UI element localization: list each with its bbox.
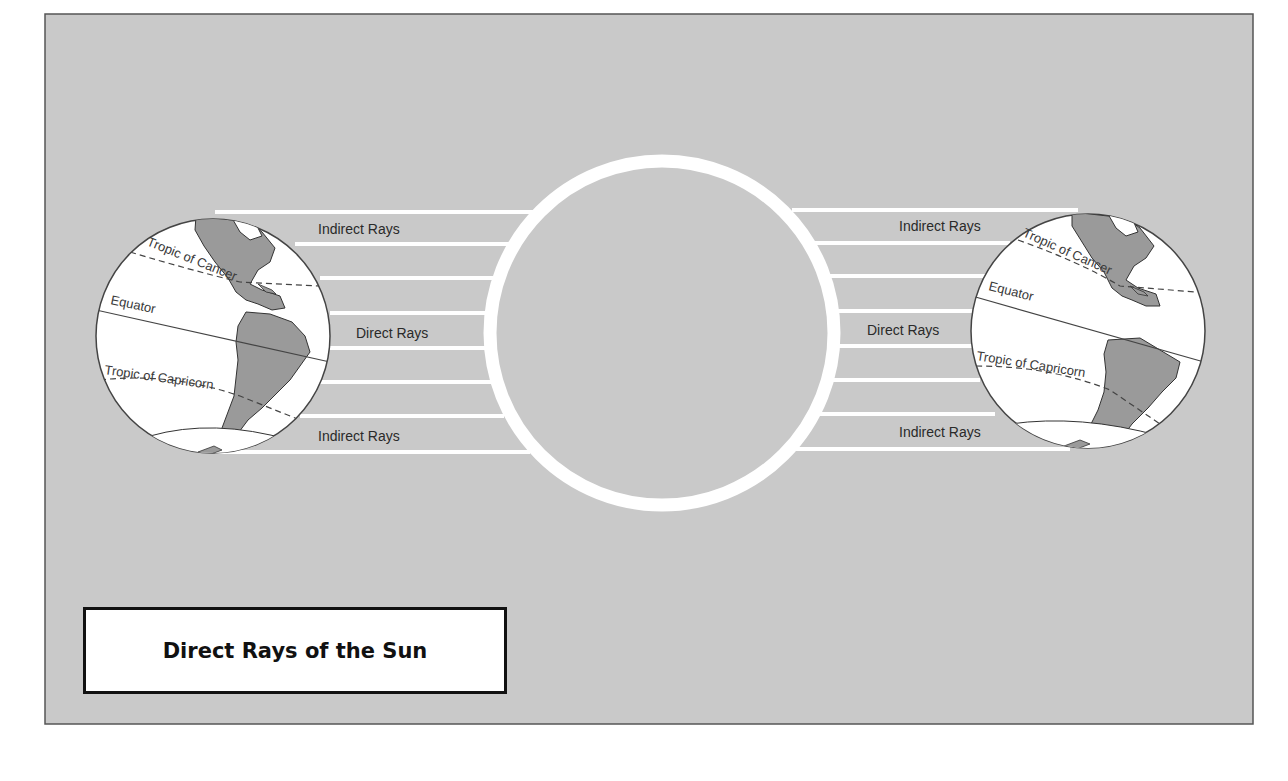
sun-circle bbox=[490, 161, 834, 505]
left-direct-rays-label: Direct Rays bbox=[356, 325, 428, 341]
diagram-title-box: Direct Rays of the Sun bbox=[83, 607, 507, 694]
left-indirect-rays-bottom-label: Indirect Rays bbox=[318, 428, 400, 444]
diagram-title: Direct Rays of the Sun bbox=[163, 639, 428, 663]
right-indirect-rays-top-label: Indirect Rays bbox=[899, 218, 981, 234]
right-direct-rays-label: Direct Rays bbox=[867, 322, 939, 338]
left-indirect-rays-top-label: Indirect Rays bbox=[318, 221, 400, 237]
right-indirect-rays-bottom-label: Indirect Rays bbox=[899, 424, 981, 440]
